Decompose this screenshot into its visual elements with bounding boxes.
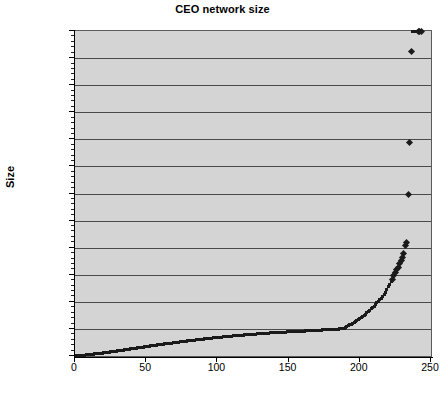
y-tick-minor xyxy=(71,149,74,150)
data-point xyxy=(384,291,387,294)
y-tick-minor xyxy=(71,182,74,183)
y-tick-minor xyxy=(71,117,74,118)
y-tick-minor xyxy=(71,187,74,188)
y-tick-minor xyxy=(71,279,74,280)
y-tick-mark xyxy=(69,247,74,248)
y-tick-mark xyxy=(69,301,74,302)
x-tick-label: 0 xyxy=(44,362,104,373)
y-tick-minor xyxy=(71,122,74,123)
y-tick-minor xyxy=(71,95,74,96)
y-tick-mark xyxy=(69,355,74,356)
y-tick-minor xyxy=(71,52,74,53)
y-tick-minor xyxy=(71,100,74,101)
y-tick-minor xyxy=(71,41,74,42)
x-tick-label: 250 xyxy=(400,362,445,373)
x-tick-label: 200 xyxy=(329,362,389,373)
x-axis-line xyxy=(74,357,433,358)
y-tick-minor xyxy=(71,90,74,91)
y-tick-minor xyxy=(71,241,74,242)
y-tick-minor xyxy=(71,160,74,161)
x-tick-mark xyxy=(430,357,431,362)
x-tick-mark xyxy=(145,357,146,362)
chart-container: CEO network size Size 050001000015000200… xyxy=(0,0,445,397)
gridline xyxy=(75,248,431,249)
data-point xyxy=(400,250,407,257)
y-axis-line xyxy=(74,30,75,358)
x-tick-mark xyxy=(216,357,217,362)
y-tick-minor xyxy=(71,46,74,47)
gridline xyxy=(75,194,431,195)
y-tick-mark xyxy=(69,30,74,31)
y-axis-title: Size xyxy=(4,147,16,207)
gridline xyxy=(75,85,431,86)
y-tick-mark xyxy=(69,274,74,275)
y-tick-minor xyxy=(71,128,74,129)
plot-area xyxy=(74,30,432,357)
y-tick-mark xyxy=(69,138,74,139)
x-tick-mark xyxy=(74,357,75,362)
y-tick-minor xyxy=(71,68,74,69)
gridline xyxy=(75,275,431,276)
y-tick-minor xyxy=(71,133,74,134)
y-tick-minor xyxy=(71,230,74,231)
y-tick-minor xyxy=(71,285,74,286)
y-tick-minor xyxy=(71,295,74,296)
y-tick-minor xyxy=(71,171,74,172)
x-tick-label: 150 xyxy=(258,362,318,373)
y-tick-minor xyxy=(71,306,74,307)
y-tick-minor xyxy=(71,79,74,80)
y-tick-minor xyxy=(71,106,74,107)
y-tick-minor xyxy=(71,312,74,313)
y-tick-minor xyxy=(71,203,74,204)
x-tick-mark xyxy=(288,357,289,362)
gridline xyxy=(75,139,431,140)
gridline xyxy=(75,221,431,222)
data-point xyxy=(385,288,388,291)
y-tick-minor xyxy=(71,339,74,340)
y-tick-mark xyxy=(69,84,74,85)
gridline xyxy=(75,58,431,59)
y-tick-minor xyxy=(71,176,74,177)
gridline xyxy=(75,112,431,113)
y-tick-mark xyxy=(69,111,74,112)
y-tick-minor xyxy=(71,236,74,237)
y-tick-minor xyxy=(71,350,74,351)
y-tick-minor xyxy=(71,35,74,36)
y-tick-minor xyxy=(71,209,74,210)
y-tick-minor xyxy=(71,198,74,199)
data-point xyxy=(408,47,415,54)
y-tick-minor xyxy=(71,290,74,291)
y-tick-minor xyxy=(71,258,74,259)
x-tick-label: 100 xyxy=(186,362,246,373)
data-point xyxy=(405,191,412,198)
y-tick-minor xyxy=(71,317,74,318)
y-tick-mark xyxy=(69,57,74,58)
y-tick-mark xyxy=(69,193,74,194)
y-tick-minor xyxy=(71,144,74,145)
y-tick-mark xyxy=(69,328,74,329)
chart-title: CEO network size xyxy=(0,3,445,15)
y-tick-mark xyxy=(69,165,74,166)
y-tick-minor xyxy=(71,155,74,156)
data-point xyxy=(388,283,391,286)
y-tick-minor xyxy=(71,323,74,324)
y-tick-minor xyxy=(71,252,74,253)
gridline xyxy=(75,329,431,330)
y-tick-minor xyxy=(71,344,74,345)
y-tick-mark xyxy=(69,220,74,221)
y-tick-minor xyxy=(71,263,74,264)
y-tick-minor xyxy=(71,73,74,74)
x-tick-mark xyxy=(359,357,360,362)
x-tick-label: 50 xyxy=(115,362,175,373)
y-tick-minor xyxy=(71,268,74,269)
gridline xyxy=(75,166,431,167)
y-tick-minor xyxy=(71,63,74,64)
y-tick-minor xyxy=(71,214,74,215)
y-tick-minor xyxy=(71,225,74,226)
y-tick-minor xyxy=(71,333,74,334)
